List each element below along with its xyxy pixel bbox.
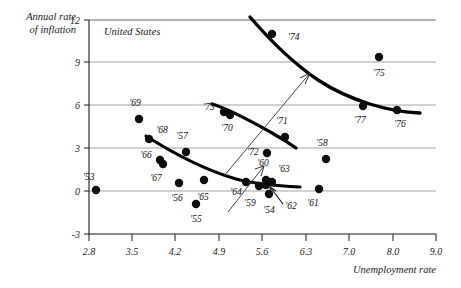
data-point-label: '73 bbox=[203, 102, 215, 112]
x-tick-label: 6.3 bbox=[300, 246, 313, 257]
data-point bbox=[175, 179, 183, 187]
data-point-label: '76 bbox=[394, 119, 406, 129]
data-point-label: '67 bbox=[150, 173, 163, 183]
phillips-curve-chart: 12 9 6 3 0 -3 2.8 3.5 4.2 4.9 5.6 6.3 7.… bbox=[0, 0, 461, 288]
data-point-label: '71 bbox=[276, 116, 288, 126]
data-point-label: '54 bbox=[263, 205, 275, 215]
x-tickmarks bbox=[89, 234, 436, 241]
upper-phillips-curve-outer bbox=[250, 17, 420, 113]
x-tick-label: 5.6 bbox=[256, 246, 269, 257]
data-point-label: '56 bbox=[171, 193, 183, 203]
data-point-label: '61 bbox=[307, 198, 319, 208]
data-point bbox=[200, 176, 208, 184]
y-tick-label: 3 bbox=[74, 143, 80, 154]
x-tick-labels: 2.8 3.5 4.2 4.9 5.6 6.3 7.0 8.0 9.0 bbox=[83, 246, 443, 257]
data-point-label: '62 bbox=[285, 201, 297, 211]
panel-label-united-states: United States bbox=[104, 26, 160, 37]
data-point bbox=[242, 178, 250, 186]
y-axis-title-line2: of inflation bbox=[30, 24, 76, 35]
y-tick-label: 9 bbox=[75, 57, 80, 68]
data-point-label: '55 bbox=[190, 214, 202, 224]
data-point bbox=[220, 108, 228, 116]
x-tick-label: 3.5 bbox=[125, 246, 139, 257]
data-point-label: '60 bbox=[257, 158, 269, 168]
data-point bbox=[315, 185, 323, 193]
data-point bbox=[268, 178, 276, 186]
y-tickmarks bbox=[84, 20, 89, 234]
y-tick-labels: 12 9 6 3 0 -3 bbox=[70, 15, 80, 240]
data-point bbox=[263, 149, 271, 157]
data-point-label: '64 bbox=[230, 187, 242, 197]
lower-phillips-curve bbox=[146, 136, 300, 187]
x-axis-title: Unemployment rate bbox=[353, 264, 436, 275]
y-tick-label: 6 bbox=[75, 100, 80, 111]
data-point bbox=[182, 148, 190, 156]
data-point bbox=[322, 155, 330, 163]
data-point-label: '68 bbox=[156, 125, 168, 135]
data-point-label: '77 bbox=[354, 115, 367, 125]
x-tick-label: 8.0 bbox=[387, 246, 400, 257]
data-points-layer: '53'54'55'56'57'58'59'60'61'62'63'64'65'… bbox=[83, 30, 406, 224]
data-point bbox=[159, 160, 167, 168]
data-point bbox=[359, 102, 367, 110]
data-point-label: '69 bbox=[129, 98, 141, 108]
data-point-label: '70 bbox=[221, 123, 233, 133]
data-point bbox=[268, 30, 276, 38]
data-point-label: '53 bbox=[83, 172, 95, 182]
x-tick-label: 7.0 bbox=[343, 246, 356, 257]
data-point bbox=[375, 53, 383, 61]
data-point bbox=[281, 133, 289, 141]
data-point-label: '57 bbox=[176, 131, 189, 141]
data-point-label: '63 bbox=[278, 164, 290, 174]
data-point-label: '72 bbox=[247, 147, 259, 157]
y-tick-label: 0 bbox=[75, 186, 80, 197]
data-point-label: '75 bbox=[373, 68, 385, 78]
data-point bbox=[145, 135, 153, 143]
y-tick-label: -3 bbox=[72, 229, 80, 240]
x-tick-label: 4.9 bbox=[213, 246, 226, 257]
data-point-label: '58 bbox=[316, 138, 328, 148]
x-tick-label: 2.8 bbox=[83, 246, 96, 257]
data-point bbox=[393, 106, 401, 114]
x-tick-label: 9.0 bbox=[430, 246, 443, 257]
data-point-label: '74 bbox=[288, 32, 300, 42]
data-point-label: '65 bbox=[197, 192, 209, 202]
y-axis-title-line1: Annual rate bbox=[25, 11, 76, 22]
data-point bbox=[92, 186, 100, 194]
x-tick-label: 4.2 bbox=[169, 246, 182, 257]
data-point-label: '59 bbox=[244, 198, 256, 208]
data-point bbox=[135, 115, 143, 123]
data-point bbox=[265, 190, 273, 198]
data-point-label: '66 bbox=[140, 150, 152, 160]
